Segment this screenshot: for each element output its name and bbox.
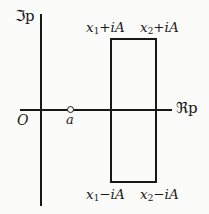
corner-bl-operator: − bbox=[99, 186, 110, 202]
corner-label-bottom-right: x2−iA bbox=[140, 188, 179, 203]
corner-tl-imaginary: iA bbox=[111, 19, 125, 35]
corner-label-bottom-left: x1−iA bbox=[86, 188, 125, 203]
point-a-label: a bbox=[66, 113, 74, 126]
corner-tl-variable: x bbox=[86, 19, 94, 35]
corner-br-variable: x bbox=[140, 186, 148, 202]
rectangular-contour-path bbox=[110, 38, 157, 183]
corner-br-imaginary: iA bbox=[165, 186, 179, 202]
corner-label-top-left: x1+iA bbox=[86, 21, 125, 36]
origin-label: O bbox=[17, 113, 28, 127]
complex-plane-figure: ℑp ℜp O a x1+iA x2+iA x1−iA x2−iA bbox=[0, 0, 209, 214]
corner-bl-variable: x bbox=[86, 186, 94, 202]
real-axis-label: ℜp bbox=[176, 101, 198, 116]
corner-bl-imaginary: iA bbox=[111, 186, 125, 202]
corner-br-operator: − bbox=[153, 186, 164, 202]
corner-tl-operator: + bbox=[99, 19, 110, 35]
corner-tr-variable: x bbox=[140, 19, 148, 35]
corner-label-top-right: x2+iA bbox=[140, 21, 179, 36]
corner-tr-operator: + bbox=[153, 19, 164, 35]
imaginary-axis-label: ℑp bbox=[15, 9, 35, 24]
corner-tr-imaginary: iA bbox=[165, 19, 179, 35]
